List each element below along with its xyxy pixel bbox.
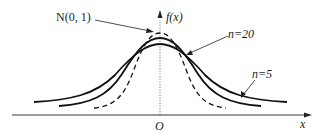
curve-n5 — [34, 44, 287, 102]
y-axis-arrow-icon — [158, 10, 163, 18]
label-x: x — [299, 117, 306, 131]
n5-pointer — [243, 80, 255, 95]
normal-arrow-icon — [146, 28, 154, 33]
label-n20: n=20 — [228, 27, 254, 41]
normal-pointer — [95, 20, 150, 31]
density-chart: N(0, 1) f(x) n=20 n=5 O x — [0, 0, 320, 135]
n20-pointer — [190, 36, 228, 53]
label-origin: O — [155, 119, 164, 133]
label-normal: N(0, 1) — [56, 10, 91, 24]
label-n5: n=5 — [252, 67, 272, 81]
n20-arrow-icon — [186, 50, 193, 55]
label-fx: f(x) — [166, 10, 183, 24]
